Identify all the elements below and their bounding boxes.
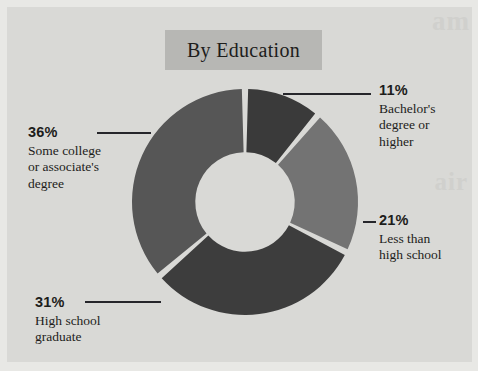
slice-name-some-college: Some college or associate's degree	[28, 143, 158, 192]
leader-line-bachelors	[283, 93, 371, 95]
slice-value-less-than-high-school: 21%	[379, 212, 475, 230]
chart-figure: am air By Education 11% Bachelor's degre…	[0, 0, 478, 371]
leader-line-less-than-high-school	[363, 221, 376, 223]
slice-value-some-college: 36%	[28, 124, 158, 142]
slice-value-bachelors: 11%	[379, 82, 475, 100]
slice-label-high-school-graduate: 31% High school graduate	[35, 294, 160, 346]
donut-slice-group	[132, 89, 358, 315]
slice-label-bachelors: 11% Bachelor's degree or higher	[379, 82, 475, 150]
slice-value-high-school-graduate: 31%	[35, 294, 160, 312]
slice-name-less-than-high-school: Less than high school	[379, 231, 475, 264]
slice-label-less-than-high-school: 21% Less than high school	[379, 212, 475, 264]
slice-name-bachelors: Bachelor's degree or higher	[379, 101, 475, 150]
slice-label-some-college: 36% Some college or associate's degree	[28, 124, 158, 192]
slice-name-high-school-graduate: High school graduate	[35, 313, 160, 346]
